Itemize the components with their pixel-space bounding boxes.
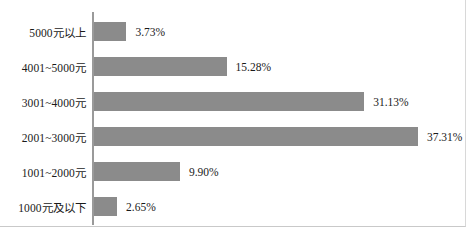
category-label: 5000元以上	[0, 24, 86, 40]
bar-value-label: 2.65%	[126, 201, 156, 213]
bar-value-label: 37.31%	[427, 131, 462, 143]
bar-row: 1000元及以下2.65%	[0, 189, 466, 224]
bar-with-value: 31.13%	[94, 92, 409, 111]
bar-with-value: 3.73%	[94, 22, 165, 41]
category-label: 4001~5000元	[0, 59, 86, 75]
bar-with-value: 37.31%	[94, 127, 462, 146]
bar-value-label: 31.13%	[373, 96, 408, 108]
bar	[94, 57, 227, 76]
bar-with-value: 15.28%	[94, 57, 271, 76]
bar	[94, 162, 180, 181]
bar-rows: 5000元以上3.73%4001~5000元15.28%3001~4000元31…	[0, 12, 466, 225]
bar-with-value: 9.90%	[94, 162, 219, 181]
bar-row: 1001~2000元9.90%	[0, 154, 466, 189]
bar	[94, 92, 364, 111]
category-label: 1000元及以下	[0, 199, 86, 215]
bar-value-label: 15.28%	[236, 61, 271, 73]
bar-chart: 5000元以上3.73%4001~5000元15.28%3001~4000元31…	[0, 0, 474, 241]
category-label: 2001~3000元	[0, 129, 86, 145]
bar-value-label: 9.90%	[189, 166, 219, 178]
bar-row: 4001~5000元15.28%	[0, 49, 466, 84]
bar	[94, 197, 117, 216]
bar-row: 5000元以上3.73%	[0, 14, 466, 49]
bar-value-label: 3.73%	[135, 26, 165, 38]
category-label: 3001~4000元	[0, 94, 86, 110]
bar-row: 2001~3000元37.31%	[0, 119, 466, 154]
category-label: 1001~2000元	[0, 164, 86, 180]
bar-with-value: 2.65%	[94, 197, 156, 216]
bar	[94, 127, 418, 146]
bar	[94, 22, 126, 41]
bar-row: 3001~4000元31.13%	[0, 84, 466, 119]
